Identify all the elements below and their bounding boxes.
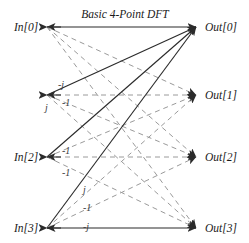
edge-weight-label-6: -1 bbox=[83, 203, 91, 213]
dft-butterfly-diagram: Basic 4-Point DFT In[0]In[2]In[3]Out[0]O… bbox=[0, 0, 249, 243]
input-label-2: In[2] bbox=[14, 152, 38, 164]
edge-weight-label-1: -1 bbox=[62, 98, 70, 108]
output-label-2: Out[2] bbox=[205, 152, 237, 164]
edge-weight-label-0: -j bbox=[58, 80, 64, 90]
figure-title: Basic 4-Point DFT bbox=[81, 9, 169, 21]
output-label-0: Out[0] bbox=[205, 22, 237, 34]
edge-weight-label-4: -1 bbox=[62, 168, 70, 178]
signal-flow-graph bbox=[0, 0, 249, 243]
input-label-0: In[0] bbox=[14, 22, 38, 34]
output-label-1: Out[1] bbox=[205, 90, 237, 102]
edge-weight-label-2: j bbox=[45, 103, 48, 113]
edge-weight-label-3: -1 bbox=[62, 146, 70, 156]
input-label-3: In[3] bbox=[14, 223, 38, 235]
edge-weight-label-7: -j bbox=[83, 222, 89, 232]
output-label-3: Out[3] bbox=[205, 223, 237, 235]
edge-layer bbox=[47, 27, 196, 228]
edge-weight-label-5: j bbox=[83, 185, 86, 195]
